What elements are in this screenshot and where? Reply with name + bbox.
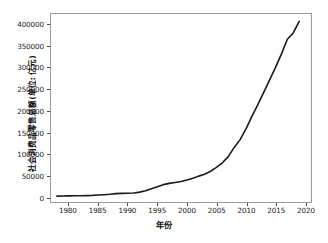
x-tick-mark [276,203,277,206]
y-tick-mark [47,198,50,199]
y-tick-label: 200000 [0,106,44,115]
y-tick-label: 100000 [0,150,44,159]
x-tick-mark [157,203,158,206]
x-tick-mark [247,203,248,206]
x-tick-label: 2020 [297,206,315,215]
y-tick-mark [47,89,50,90]
y-tick-label: 0 [0,193,44,202]
x-tick-mark [217,203,218,206]
y-tick-label: 300000 [0,63,44,72]
y-tick-mark [47,111,50,112]
x-tick-mark [98,203,99,206]
y-tick-label: 400000 [0,19,44,28]
line-series-layer [51,14,311,202]
plot-area [50,13,312,203]
x-tick-label: 1990 [118,206,136,215]
y-tick-mark [47,46,50,47]
x-tick-label: 2015 [267,206,285,215]
x-tick-mark [306,203,307,206]
x-tick-mark [187,203,188,206]
x-tick-mark [127,203,128,206]
y-tick-mark [47,133,50,134]
x-tick-label: 1980 [59,206,77,215]
x-axis-title: 年份 [0,218,328,230]
x-tick-label: 1995 [148,206,166,215]
y-tick-label: 250000 [0,85,44,94]
y-tick-label: 50000 [0,172,44,181]
chart-figure: 0500001000001500002000002500003000003500… [0,0,328,243]
y-tick-mark [47,67,50,68]
y-tick-mark [47,176,50,177]
line-series-path [57,21,299,196]
x-tick-label: 2000 [178,206,196,215]
y-tick-label: 350000 [0,41,44,50]
y-tick-mark [47,24,50,25]
y-tick-label: 150000 [0,128,44,137]
y-tick-mark [47,154,50,155]
x-tick-label: 1985 [89,206,107,215]
x-tick-label: 2010 [238,206,256,215]
x-tick-mark [68,203,69,206]
x-tick-label: 2005 [208,206,226,215]
y-axis-title: 社会消费品零售总额(单位: 亿元) [26,29,37,199]
